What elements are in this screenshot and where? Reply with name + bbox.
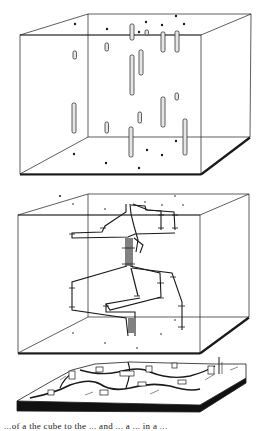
figure-caption: ...of a the cube to the ... and ... a ..…	[4, 421, 267, 431]
cube-boreholes	[20, 14, 251, 175]
cube-network	[18, 194, 249, 354]
terrain-block	[17, 357, 246, 412]
figure	[0, 0, 267, 431]
